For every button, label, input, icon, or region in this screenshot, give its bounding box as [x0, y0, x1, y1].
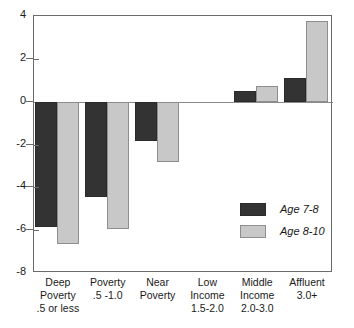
x-axis-category-label: Affluent3.0+ [276, 276, 338, 302]
bar [35, 102, 57, 227]
bar [234, 91, 256, 102]
legend-swatch-icon [240, 225, 266, 238]
y-axis-inner-tick [34, 230, 39, 231]
y-axis-tick-mark [26, 101, 33, 102]
x-axis-category-line: 2.0-3.0 [226, 302, 288, 315]
x-axis-category-line: 3.0+ [276, 289, 338, 302]
legend-item-age-8-10: Age 8-10 [240, 220, 350, 242]
y-axis-tick-mark [26, 58, 33, 59]
plot-area: Age 7-8 Age 8-10 [33, 15, 332, 272]
y-axis-inner-tick [34, 59, 39, 60]
y-axis-tick-label: -6 [16, 222, 26, 234]
legend: Age 7-8 Age 8-10 [240, 198, 350, 242]
bar [57, 102, 79, 244]
y-axis-tick-mark [26, 144, 33, 145]
x-axis-category-line: Affluent [276, 276, 338, 289]
bar [107, 102, 129, 229]
bar [135, 102, 157, 142]
y-axis-tick-label: 0 [20, 94, 26, 106]
y-axis-tick-mark [26, 229, 33, 230]
y-axis-tick-label: -8 [16, 265, 26, 277]
y-axis-tick-label: -2 [16, 137, 26, 149]
bar-chart: 420-2-4-6-8 Age 7-8 Age 8-10 DeepPoverty… [0, 0, 354, 328]
y-axis-tick-label: -4 [16, 179, 26, 191]
x-axis-category-line: .5 or less [27, 302, 89, 315]
y-axis-inner-tick [34, 145, 39, 146]
x-axis-labels: DeepPoverty.5 or lessPoverty.5 -1.0NearP… [33, 276, 332, 326]
y-axis-inner-tick [34, 187, 39, 188]
bar [157, 102, 179, 162]
legend-label: Age 7-8 [280, 203, 319, 215]
legend-item-age-7-8: Age 7-8 [240, 198, 350, 220]
legend-swatch-icon [240, 203, 266, 216]
bar [306, 21, 328, 101]
y-axis-tick-mark [26, 186, 33, 187]
bar [284, 78, 306, 102]
y-axis-tick-label: 4 [20, 8, 26, 20]
bar [85, 102, 107, 197]
bar [256, 86, 278, 102]
y-axis-tick-label: 2 [20, 51, 26, 63]
legend-label: Age 8-10 [280, 225, 325, 237]
